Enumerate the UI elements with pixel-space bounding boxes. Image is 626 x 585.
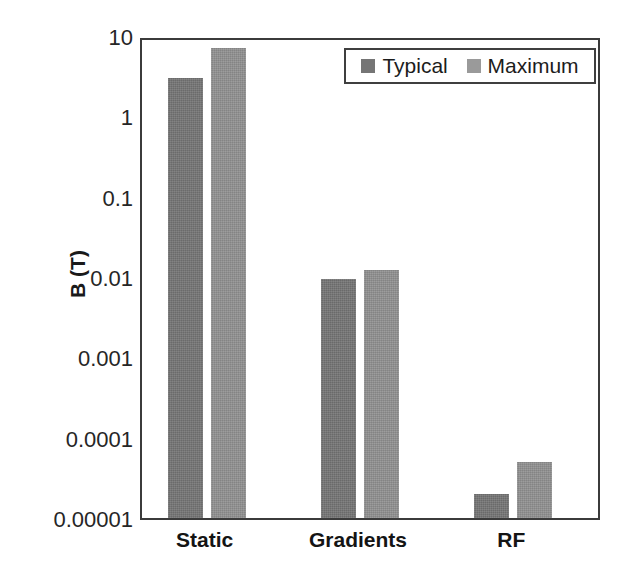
x-axis-tick-label-rf: RF (497, 528, 525, 552)
chart-figure: B (T) 1010.10.010.0010.00010.00001 Typic… (0, 0, 626, 585)
x-axis-tick-labels: StaticGradientsRF (0, 0, 626, 585)
x-axis-tick-label-gradients: Gradients (309, 528, 407, 552)
x-axis-tick-label-static: Static (176, 528, 233, 552)
